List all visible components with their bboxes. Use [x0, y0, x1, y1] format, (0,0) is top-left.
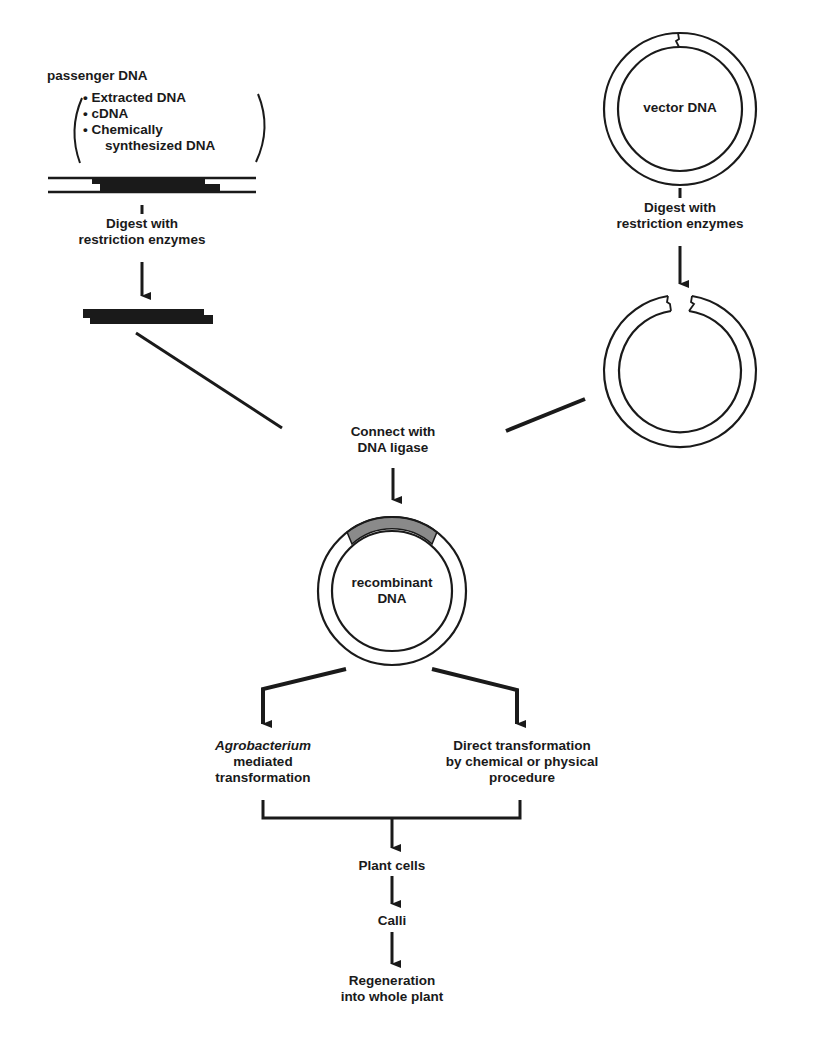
vector-dna-label: vector DNA	[620, 100, 740, 116]
agro-branch-arrow	[263, 669, 346, 724]
right-digest-label: Digest with restriction enzymes	[600, 200, 760, 232]
direct-transformation-label: Direct transformation by chemical or phy…	[432, 738, 612, 786]
calli-label: Calli	[312, 913, 472, 929]
join-bracket	[263, 800, 520, 818]
source-item: • cDNA	[83, 106, 215, 122]
recombinant-dna-flow-diagram	[0, 0, 816, 1046]
ligase-label: Connect with DNA ligase	[313, 424, 473, 456]
source-item: • Chemically	[83, 122, 215, 138]
regeneration-label: Regeneration into whole plant	[302, 973, 482, 1005]
passenger-sources-list: • Extracted DNA • cDNA • Chemically synt…	[83, 90, 215, 154]
passenger-dna-duplex	[48, 178, 256, 192]
opened-vector	[604, 296, 756, 447]
agrobacterium-label: Agrobacterium mediated transformation	[193, 738, 333, 786]
fragment-to-ligase-line	[136, 333, 282, 428]
vector-to-ligase-line	[506, 399, 585, 431]
left-digest-label: Digest with restriction enzymes	[62, 216, 222, 248]
right-paren	[256, 94, 265, 162]
plant-cells-label: Plant cells	[312, 858, 472, 874]
source-item-continued: synthesized DNA	[83, 138, 215, 154]
left-paren	[74, 98, 82, 163]
passenger-fragment	[83, 309, 213, 324]
source-item: • Extracted DNA	[83, 90, 215, 106]
recombinant-dna-label: recombinant DNA	[332, 575, 452, 607]
direct-branch-arrow	[432, 669, 517, 724]
passenger-dna-title: passenger DNA	[47, 68, 148, 84]
